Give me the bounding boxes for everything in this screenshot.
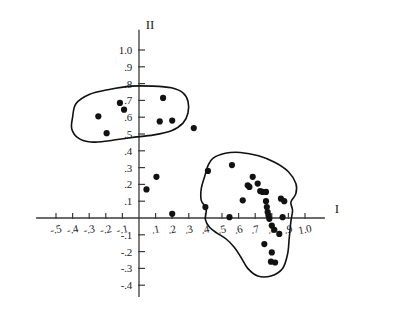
x-tick-label: .9	[283, 222, 294, 235]
data-point	[271, 227, 277, 233]
x-tick-label: -.3	[82, 222, 96, 236]
data-point	[272, 259, 278, 265]
y-tick-label: 1.0	[119, 44, 133, 56]
plot-canvas: -.5-.4-.3-.2-.1.1.2.3.4.5.6.7.8.91.0 -.4…	[0, 0, 400, 325]
y-tick-label: .9	[124, 61, 133, 73]
data-point	[255, 180, 261, 186]
x-tick-label: 1.0	[297, 222, 313, 236]
y-tick-label: .1	[124, 195, 132, 207]
x-axis-title: I	[335, 201, 339, 216]
y-tick-label: -.4	[121, 279, 133, 291]
data-point	[169, 117, 175, 123]
data-point	[202, 204, 208, 210]
data-point	[104, 130, 110, 136]
data-point	[191, 125, 197, 131]
data-point	[143, 186, 149, 192]
data-point	[169, 211, 175, 217]
data-point	[240, 197, 246, 203]
x-tick-label: .7	[250, 222, 261, 235]
x-tick-label: .4	[200, 222, 211, 235]
data-point	[261, 241, 267, 247]
x-tick-label: -.5	[49, 222, 63, 236]
y-tick-label: .4	[124, 145, 133, 157]
scatter-plot-figure: -.5-.4-.3-.2-.1.1.2.3.4.5.6.7.8.91.0 -.4…	[0, 0, 400, 325]
data-point	[226, 214, 232, 220]
data-point	[246, 184, 252, 190]
y-tick-label: .8	[124, 78, 133, 90]
x-tick-label: -.4	[66, 222, 80, 236]
data-point	[263, 198, 269, 204]
y-tick-label: .2	[124, 178, 132, 190]
y-tick-label: .7	[124, 94, 133, 106]
data-point	[205, 168, 211, 174]
y-axis-title: II	[146, 17, 155, 32]
x-tick-label: .6	[233, 222, 244, 235]
x-tick-label: -.2	[99, 222, 112, 236]
data-point	[95, 113, 101, 119]
axis-lines	[36, 30, 325, 297]
data-point	[229, 162, 235, 168]
data-point	[153, 174, 159, 180]
data-point	[157, 118, 163, 124]
data-point	[250, 174, 256, 180]
y-tick-label: -.1	[121, 229, 132, 241]
data-point	[266, 216, 272, 222]
data-point	[276, 231, 282, 237]
data-point	[121, 107, 127, 113]
data-point	[281, 198, 287, 204]
y-tick-label: .6	[124, 111, 133, 123]
data-point	[279, 214, 285, 220]
x-tick-label: .1	[150, 222, 160, 235]
cluster-outlines-group	[71, 86, 296, 277]
y-axis-ticks: -.4-.3-.2-.1.1.2.3.4.5.6.7.8.91.0	[119, 44, 145, 291]
x-tick-label: .2	[167, 222, 177, 235]
data-point	[269, 249, 275, 255]
y-tick-label: -.3	[121, 262, 133, 274]
data-point	[117, 100, 123, 106]
y-tick-label: -.2	[121, 246, 132, 258]
y-tick-label: .3	[124, 162, 133, 174]
data-point	[160, 95, 166, 101]
data-point	[263, 189, 269, 195]
x-tick-label: .3	[184, 222, 195, 235]
